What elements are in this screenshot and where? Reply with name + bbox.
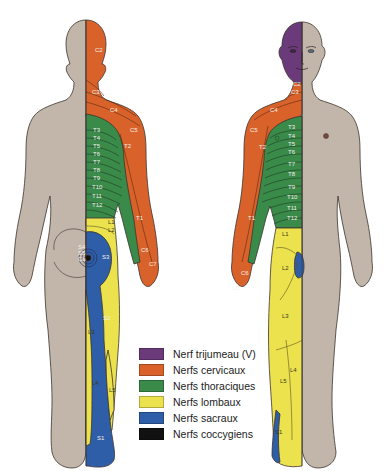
- sacral-swatch: [139, 412, 164, 424]
- svg-text:C3: C3: [291, 89, 299, 95]
- svg-text:C2: C2: [293, 81, 301, 87]
- legend-label: Nerfs coccygiens: [173, 428, 253, 440]
- svg-text:L5: L5: [280, 378, 287, 384]
- svg-text:T7: T7: [288, 161, 296, 167]
- svg-text:S1: S1: [97, 435, 105, 441]
- svg-text:T10: T10: [287, 194, 298, 200]
- legend-label: Nerfs thoraciques: [173, 380, 255, 392]
- legend-item-coccygeal: Nerfs coccygiens: [139, 426, 256, 442]
- anterior-nipple-marker: [324, 134, 329, 139]
- svg-text:T2: T2: [259, 144, 267, 150]
- svg-text:C4: C4: [270, 107, 278, 113]
- svg-text:C6: C6: [141, 247, 149, 253]
- svg-text:T8: T8: [93, 167, 101, 173]
- svg-text:L1: L1: [282, 231, 289, 237]
- svg-text:C2: C2: [95, 47, 103, 53]
- svg-text:L4: L4: [290, 367, 297, 373]
- legend-item-thoracic: Nerfs thoraciques: [139, 378, 256, 394]
- svg-text:T1: T1: [248, 215, 256, 221]
- trigeminal-swatch: [139, 348, 164, 360]
- svg-text:T12: T12: [92, 202, 103, 208]
- svg-text:T6: T6: [288, 149, 296, 155]
- svg-text:T9: T9: [93, 175, 101, 181]
- legend-label: Nerfs lombaux: [173, 396, 241, 408]
- svg-text:S3: S3: [102, 254, 110, 260]
- svg-text:C5: C5: [130, 127, 138, 133]
- svg-text:L5: L5: [109, 387, 116, 393]
- legend-item-sacral: Nerfs sacraux: [139, 410, 256, 426]
- anterior-body-silhouette: [302, 22, 373, 468]
- svg-text:L4: L4: [92, 380, 99, 386]
- legend-item-trigeminal: Nerf trijumeau (V): [139, 346, 256, 362]
- legend: Nerf trijumeau (V) Nerfs cervicaux Nerfs…: [139, 346, 256, 442]
- coccygeal-swatch: [139, 428, 164, 440]
- svg-text:T10: T10: [92, 184, 103, 190]
- svg-text:L2: L2: [108, 227, 115, 233]
- svg-text:T9: T9: [288, 184, 296, 190]
- svg-text:T3: T3: [288, 124, 296, 130]
- legend-label: Nerfs cervicaux: [173, 364, 245, 376]
- svg-text:T4: T4: [288, 133, 296, 139]
- svg-text:T12: T12: [287, 215, 298, 221]
- svg-text:L1: L1: [108, 219, 115, 225]
- lumbar-swatch: [139, 396, 164, 408]
- svg-text:T2: T2: [124, 143, 132, 149]
- posterior-figure: [13, 20, 158, 468]
- svg-text:S2: S2: [103, 315, 111, 321]
- svg-text:C7: C7: [233, 285, 241, 291]
- svg-text:C4: C4: [110, 107, 118, 113]
- svg-text:T11: T11: [287, 205, 298, 211]
- svg-text:T3: T3: [93, 127, 101, 133]
- legend-label: Nerf trijumeau (V): [173, 348, 256, 360]
- svg-text:T4: T4: [93, 135, 101, 141]
- svg-text:Co: Co: [78, 256, 86, 262]
- svg-text:T6: T6: [93, 151, 101, 157]
- svg-text:T7: T7: [93, 159, 101, 165]
- svg-text:C3: C3: [92, 89, 100, 95]
- svg-text:T5: T5: [93, 143, 101, 149]
- svg-text:T8: T8: [288, 171, 296, 177]
- legend-item-lumbar: Nerfs lombaux: [139, 394, 256, 410]
- thoracic-swatch: [139, 380, 164, 392]
- svg-text:L3: L3: [282, 313, 289, 319]
- svg-text:C7: C7: [149, 261, 157, 267]
- svg-text:T11: T11: [92, 193, 103, 199]
- legend-item-cervical: Nerfs cervicaux: [139, 362, 256, 378]
- cervical-swatch: [139, 364, 164, 376]
- svg-text:L3: L3: [88, 329, 95, 335]
- svg-text:C6: C6: [241, 270, 249, 276]
- posterior-body-silhouette: [13, 20, 86, 468]
- svg-text:C5: C5: [250, 127, 258, 133]
- anterior-trigeminal-region: [279, 22, 302, 84]
- legend-label: Nerfs sacraux: [173, 412, 238, 424]
- svg-text:T5: T5: [288, 141, 296, 147]
- svg-text:T1: T1: [136, 215, 144, 221]
- svg-text:L2: L2: [282, 265, 289, 271]
- svg-text:S1: S1: [275, 429, 283, 435]
